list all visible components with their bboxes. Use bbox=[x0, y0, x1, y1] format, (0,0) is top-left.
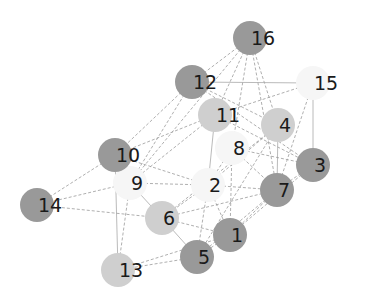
node-6[interactable]: 6 bbox=[145, 201, 179, 235]
node-12[interactable]: 12 bbox=[175, 65, 217, 99]
node-label: 14 bbox=[38, 194, 62, 216]
node-2[interactable]: 2 bbox=[191, 168, 225, 202]
node-5[interactable]: 5 bbox=[180, 240, 214, 274]
node-label: 9 bbox=[131, 172, 143, 194]
node-4[interactable]: 4 bbox=[261, 108, 295, 142]
node-label: 8 bbox=[233, 137, 245, 159]
node-label: 16 bbox=[251, 27, 275, 49]
node-14[interactable]: 14 bbox=[20, 188, 62, 222]
node-label: 15 bbox=[314, 72, 338, 94]
node-label: 13 bbox=[119, 259, 143, 281]
node-label: 6 bbox=[163, 207, 175, 229]
node-label: 12 bbox=[193, 71, 217, 93]
node-label: 3 bbox=[314, 154, 326, 176]
node-label: 1 bbox=[231, 224, 243, 246]
node-label: 5 bbox=[198, 246, 210, 268]
edge-layer bbox=[37, 38, 313, 270]
node-15[interactable]: 15 bbox=[296, 66, 338, 100]
node-7[interactable]: 7 bbox=[260, 173, 294, 207]
network-graph: 12345678910111213141516 bbox=[0, 0, 366, 305]
node-16[interactable]: 16 bbox=[233, 21, 275, 55]
node-1[interactable]: 1 bbox=[213, 218, 247, 252]
node-11[interactable]: 11 bbox=[198, 98, 240, 132]
node-13[interactable]: 13 bbox=[101, 253, 143, 287]
node-label: 7 bbox=[278, 179, 290, 201]
node-label: 2 bbox=[209, 174, 221, 196]
node-layer: 12345678910111213141516 bbox=[20, 21, 338, 287]
node-label: 10 bbox=[116, 144, 140, 166]
node-label: 11 bbox=[216, 104, 240, 126]
node-3[interactable]: 3 bbox=[296, 148, 330, 182]
node-label: 4 bbox=[279, 114, 291, 136]
node-8[interactable]: 8 bbox=[215, 131, 249, 165]
